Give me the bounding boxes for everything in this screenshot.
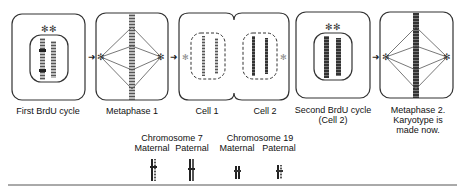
stage-label: Karyotype is [393, 115, 443, 125]
stage-label: Metaphase 1 [106, 106, 158, 116]
chromosome [324, 36, 329, 78]
stage-label: First BrdU cycle [16, 106, 80, 116]
chromosome-7-maternal [150, 159, 157, 181]
stage-label: Cell 1 [195, 106, 218, 116]
stage-cells-1-2: ✻ ✻ [179, 13, 289, 100]
stage-label: made now. [396, 125, 440, 135]
legend-item-label: Paternal [262, 143, 296, 153]
centrosome-icon: ✻✻ [41, 24, 57, 34]
legend-item-label: Maternal [219, 143, 254, 153]
centrosome-icon: ✻ [280, 53, 287, 62]
chromosome-19-paternal [276, 165, 283, 179]
stage-first-brdu: ✻✻ [12, 14, 85, 100]
stage-metaphase-2: ✻ ✻ [380, 12, 453, 98]
centromere-band [39, 49, 46, 52]
legend-item-label: Paternal [175, 143, 209, 153]
chromosome-7-paternal [188, 159, 195, 181]
centrosome-icon: ✻✻ [325, 22, 341, 32]
chromosome [51, 41, 56, 78]
stage-label: Metaphase 2. [391, 105, 446, 115]
arrow-icon: ➜ [170, 52, 178, 62]
chromosome-stack [413, 13, 419, 98]
legend-group-title: Chromosome 19 [227, 133, 294, 143]
dividing-cell-outline [179, 13, 289, 100]
stage-second-brdu: ✻✻ [296, 12, 370, 98]
stage-label: (Cell 2) [318, 115, 347, 125]
stage-label: Cell 2 [253, 106, 276, 116]
arrow-icon: ➜ [372, 52, 380, 62]
centrosome-icon: ✻ [382, 52, 390, 62]
nucleus-outline [314, 33, 352, 80]
chromosome [40, 38, 45, 80]
nucleus-outline [30, 35, 68, 82]
chromosome [252, 36, 255, 76]
centrosome-icon: ✻ [443, 52, 451, 62]
chromosome-legend: Chromosome 7 Chromosome 19 Maternal Pate… [134, 133, 295, 181]
chromosome-19-maternal [234, 166, 241, 179]
chromosome [202, 36, 205, 76]
chromosome [265, 38, 268, 74]
centrosome-icon: ✻ [157, 52, 165, 62]
centrosome-icon: ✻ [97, 52, 105, 62]
stage-label: Second BrdU cycle [295, 105, 372, 115]
chromosome [336, 38, 341, 76]
centromere-band [39, 69, 46, 72]
stage-metaphase-1: ✻ ✻ [96, 13, 168, 100]
cell-cycle-diagram: ✻✻ ➜ ✻ ✻ ➜ ✻ ✻ ✻✻ [0, 0, 463, 190]
arrow-icon: ➜ [88, 52, 96, 62]
legend-item-label: Maternal [134, 143, 169, 153]
legend-group-title: Chromosome 7 [141, 133, 203, 143]
nucleus-outline [191, 33, 225, 79]
centrosome-icon: ✻ [182, 53, 189, 62]
chromosome [215, 38, 218, 74]
nucleus-outline [243, 33, 277, 79]
